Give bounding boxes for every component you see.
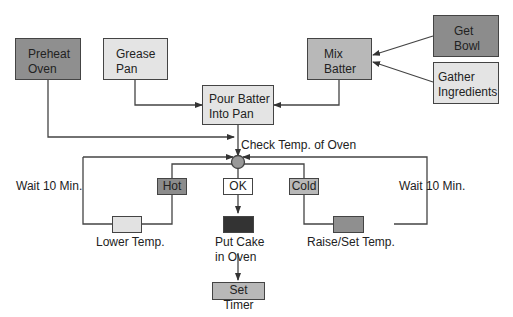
- label-line: in Oven: [215, 250, 264, 265]
- node-label: Gather: [438, 70, 498, 85]
- label-line: Put Cake: [215, 235, 264, 250]
- node-hot: Hot: [157, 178, 187, 195]
- node-lower-temp: [112, 216, 142, 233]
- decision-node: [232, 156, 245, 169]
- node-label: Cold: [292, 179, 317, 193]
- label-put-cake: Put Cake in Oven: [215, 235, 264, 265]
- label-raise-temp: Raise/Set Temp.: [307, 235, 395, 250]
- node-label: Get: [454, 24, 498, 39]
- node-grease-pan: Grease Pan: [103, 38, 168, 80]
- node-label: Batter: [324, 62, 371, 77]
- node-label: Into Pan: [209, 107, 273, 122]
- node-get-bowl: Get Bowl: [433, 15, 499, 57]
- node-label: OK: [229, 179, 246, 193]
- node-label: Pour Batter: [209, 92, 273, 107]
- node-ok: OK: [223, 178, 253, 195]
- node-label: Mix: [324, 47, 371, 62]
- node-label: Set Timer: [223, 283, 253, 312]
- label-wait-right: Wait 10 Min.: [399, 179, 465, 194]
- node-label: Pan: [116, 62, 167, 77]
- label-wait-left: Wait 10 Min.: [16, 179, 82, 194]
- node-label: Ingredients: [438, 85, 498, 100]
- node-label: Hot: [163, 179, 182, 193]
- label-lower-temp: Lower Temp.: [96, 235, 164, 250]
- node-raise-temp: [333, 216, 364, 233]
- node-label: Grease: [116, 47, 167, 62]
- node-label: Preheat: [28, 47, 80, 62]
- node-label: Oven: [28, 62, 80, 77]
- node-pour-batter: Pour Batter Into Pan: [202, 85, 274, 125]
- node-label: Bowl: [454, 39, 498, 54]
- node-cold: Cold: [289, 178, 319, 195]
- node-gather-ingredients: Gather Ingredients: [433, 62, 499, 104]
- node-preheat-oven: Preheat Oven: [15, 38, 81, 80]
- node-mix-batter: Mix Batter: [307, 38, 372, 80]
- node-put-cake: [223, 216, 254, 233]
- label-check-temp: Check Temp. of Oven: [241, 138, 356, 153]
- node-set-timer: Set Timer: [212, 282, 265, 300]
